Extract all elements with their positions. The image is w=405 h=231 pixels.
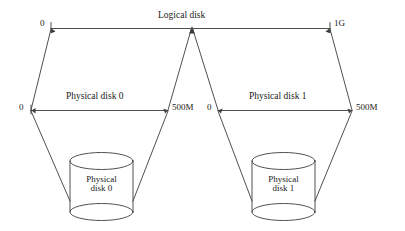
cylinder-1-label: Physical disk 1	[253, 175, 314, 194]
connector-pd0-end-to-cylinder0	[133, 111, 168, 201]
connector-logical-end-to-pd1-end	[330, 29, 352, 110]
physical-disk-1-title: Physical disk 1	[249, 92, 307, 102]
cylinder-0-bottom-ellipse	[70, 204, 133, 221]
physical-disk-1-start-label: 0	[207, 103, 212, 112]
physical-disk-0-end-label: 500M	[172, 103, 194, 112]
physical-disk-1-end-label: 500M	[356, 103, 378, 112]
cylinder-0-top-ellipse	[70, 153, 133, 170]
connector-logical-start-to-pd0-start	[31, 29, 51, 110]
diagram-canvas	[0, 0, 405, 231]
logical-disk-end-label: 1G	[334, 19, 345, 28]
logical-disk-start-label: 0	[40, 19, 45, 28]
logical-disk-midpoint-arrowhead	[189, 26, 195, 34]
cylinder-1-bottom-ellipse	[252, 204, 315, 221]
disk-mapping-diagram: Logical disk 0 1G Physical disk 0 0 500M…	[0, 0, 405, 231]
connector-logical-mid-to-pd0-end	[168, 30, 191, 110]
connector-pd0-start-to-cylinder0	[31, 111, 70, 201]
physical-disk-0-start-label: 0	[19, 103, 24, 112]
connector-logical-mid-to-pd1-start	[193, 30, 218, 110]
logical-disk-title: Logical disk	[158, 11, 205, 21]
cylinder-1-label-line2: disk 1	[253, 184, 314, 193]
cylinder-1-top-ellipse	[252, 153, 315, 170]
connector-pd1-start-to-cylinder1	[218, 111, 252, 201]
physical-disk-0-title: Physical disk 0	[66, 92, 124, 102]
cylinder-0-label: Physical disk 0	[71, 175, 132, 194]
connector-pd1-end-to-cylinder1	[315, 111, 352, 201]
cylinder-0-label-line2: disk 0	[71, 184, 132, 193]
